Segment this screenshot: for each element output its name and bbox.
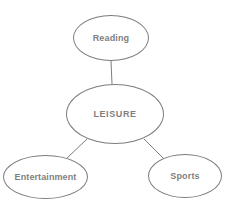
mind-map-diagram: late 1800s. Reading LEISURE Entertainmen…: [0, 0, 235, 203]
node-sports-label: Sports: [170, 171, 199, 181]
edge-leisure-sports: [144, 139, 163, 158]
node-leisure[interactable]: LEISURE: [66, 84, 164, 144]
node-reading[interactable]: Reading: [73, 15, 149, 61]
node-reading-label: Reading: [93, 33, 130, 43]
edge-leisure-entertainment: [66, 139, 87, 159]
node-entertainment[interactable]: Entertainment: [3, 155, 88, 199]
node-sports[interactable]: Sports: [148, 154, 222, 198]
node-entertainment-label: Entertainment: [15, 172, 77, 182]
edge-leisure-reading: [111, 61, 112, 84]
node-leisure-label: LEISURE: [93, 109, 136, 119]
